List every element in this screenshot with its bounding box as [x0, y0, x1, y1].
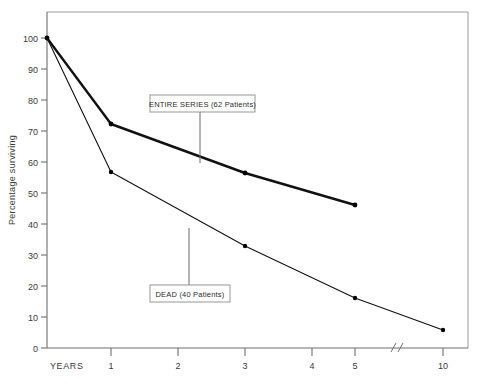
- data-point: [243, 244, 247, 248]
- series-dead: [47, 38, 445, 332]
- series-entire-series: [45, 36, 358, 208]
- y-tick-label-40: 40: [28, 220, 38, 230]
- y-tick-label-10: 10: [28, 313, 38, 323]
- y-tick-label-70: 70: [28, 127, 38, 137]
- callout-label-entire-series: ENTIRE SERIES (62 Patients): [149, 100, 256, 109]
- y-tick-label-20: 20: [28, 282, 38, 292]
- data-point: [109, 122, 114, 127]
- y-tick-label-0: 0: [33, 344, 38, 354]
- plot-frame: [47, 12, 468, 348]
- data-point: [243, 171, 248, 176]
- y-tick-label-100: 100: [23, 34, 38, 44]
- y-tick-label-30: 30: [28, 251, 38, 261]
- data-point: [109, 170, 113, 174]
- callout-entire-series: ENTIRE SERIES (62 Patients): [149, 95, 256, 163]
- y-tick-label-50: 50: [28, 189, 38, 199]
- x-tick-label-4: 4: [309, 361, 314, 371]
- callout-label-dead: DEAD (40 Patients): [155, 290, 224, 299]
- x-axis: 1 2 3 4 5 10 YEARS: [47, 343, 468, 371]
- survival-chart: 100 90 80 70 60 50 40 30 20 10 0 Percent…: [0, 0, 480, 386]
- y-tick-label-90: 90: [28, 65, 38, 75]
- y-tick-label-60: 60: [28, 158, 38, 168]
- x-tick-label-5: 5: [352, 361, 357, 371]
- x-tick-label-1: 1: [108, 361, 113, 371]
- data-point: [353, 296, 357, 300]
- x-tick-label-3: 3: [242, 361, 247, 371]
- chart-canvas: 100 90 80 70 60 50 40 30 20 10 0 Percent…: [0, 0, 480, 386]
- series-entire-series-line: [47, 38, 355, 205]
- callout-dead: DEAD (40 Patients): [150, 228, 230, 302]
- series-dead-line: [47, 38, 443, 330]
- data-point: [353, 203, 358, 208]
- data-point: [441, 328, 445, 332]
- y-axis-title: Percentage surviving: [7, 135, 17, 225]
- frame-border: [47, 12, 468, 348]
- x-tick-label-10: 10: [438, 361, 448, 371]
- y-tick-label-80: 80: [28, 96, 38, 106]
- x-tick-label-2: 2: [175, 361, 180, 371]
- x-axis-origin-label: YEARS: [50, 361, 84, 371]
- y-axis: 100 90 80 70 60 50 40 30 20 10 0 Percent…: [7, 12, 47, 354]
